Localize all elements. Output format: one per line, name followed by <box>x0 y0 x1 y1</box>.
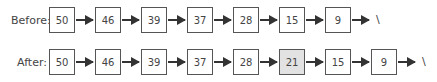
before-label: Before: <box>11 14 51 27</box>
inserted-node: 21 <box>279 49 305 75</box>
after-list: After: 50 46 39 37 28 21 15 9 \ <box>0 49 437 77</box>
next-pointer-arrow <box>168 61 185 63</box>
list-node: 28 <box>233 49 259 75</box>
list-node: 15 <box>325 49 351 75</box>
list-node: 9 <box>325 7 351 33</box>
list-node: 37 <box>187 7 213 33</box>
list-node: 50 <box>49 7 75 33</box>
list-node: 50 <box>49 49 75 75</box>
after-label: After: <box>17 56 47 69</box>
list-node: 46 <box>95 7 121 33</box>
null-terminator: \ <box>376 13 380 26</box>
next-pointer-arrow <box>76 19 93 21</box>
next-pointer-arrow <box>352 61 369 63</box>
next-pointer-arrow <box>260 19 277 21</box>
next-pointer-arrow <box>214 61 231 63</box>
next-pointer-arrow <box>306 19 323 21</box>
list-node: 28 <box>233 7 259 33</box>
next-pointer-arrow <box>76 61 93 63</box>
next-pointer-arrow <box>306 61 323 63</box>
next-pointer-arrow <box>214 19 231 21</box>
next-pointer-arrow <box>122 61 139 63</box>
list-node: 9 <box>371 49 397 75</box>
next-pointer-arrow <box>168 19 185 21</box>
list-node: 39 <box>141 49 167 75</box>
list-node: 39 <box>141 7 167 33</box>
next-pointer-arrow <box>260 61 277 63</box>
next-pointer-arrow <box>398 61 415 63</box>
list-node: 15 <box>279 7 305 33</box>
before-list: Before: 50 46 39 37 28 15 9 \ <box>0 7 437 35</box>
next-pointer-arrow <box>122 19 139 21</box>
list-node: 46 <box>95 49 121 75</box>
next-pointer-arrow <box>352 19 369 21</box>
list-node: 37 <box>187 49 213 75</box>
null-terminator: \ <box>422 55 426 68</box>
